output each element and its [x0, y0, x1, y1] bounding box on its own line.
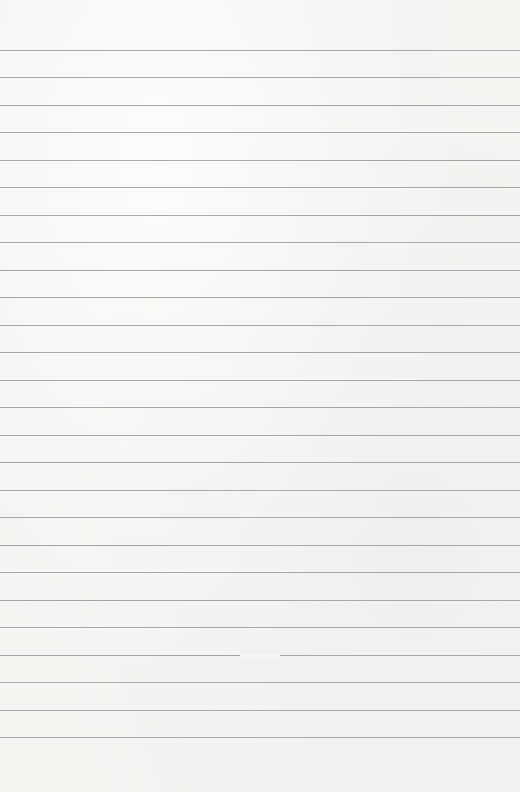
ruled-line: [0, 545, 520, 546]
ruled-line: [0, 132, 520, 133]
ruled-line: [0, 462, 520, 463]
ruled-line: [0, 435, 520, 436]
ruled-line: [0, 160, 520, 161]
ruled-line: [0, 77, 520, 78]
ruled-line: [0, 627, 520, 628]
ruled-line: [0, 517, 520, 518]
ruled-line: [0, 187, 520, 188]
ruled-line: [0, 737, 520, 738]
ruled-line: [0, 270, 520, 271]
ruled-line: [0, 215, 520, 216]
ruled-line: [0, 380, 520, 381]
ruled-line: [0, 710, 520, 711]
ruled-line: [0, 490, 520, 491]
ruled-line: [0, 600, 520, 601]
ruled-line: [0, 352, 520, 353]
ruled-line: [0, 105, 520, 106]
ruled-line: [0, 325, 520, 326]
lined-paper-sheet: [0, 0, 520, 792]
ruled-line: [0, 242, 520, 243]
ruled-line: [0, 682, 520, 683]
ruled-line: [0, 572, 520, 573]
ruled-line: [0, 297, 520, 298]
ruled-line: [0, 407, 520, 408]
ruled-line-gap: [240, 654, 280, 657]
ruled-line: [0, 50, 520, 51]
